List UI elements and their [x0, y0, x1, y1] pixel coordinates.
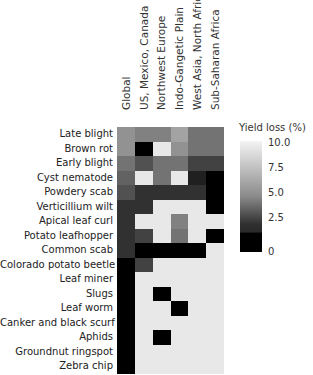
row-labels: Late blightBrown rotEarly blightCyst nem… [0, 127, 113, 374]
row-label: Canker and black scurf [0, 316, 113, 331]
heatmap-cell [206, 316, 224, 331]
row-label: Zebra chip [0, 359, 113, 374]
heatmap-cell [188, 316, 206, 331]
column-label: West Asia, North Africa [188, 0, 206, 122]
heatmap-cell [171, 330, 189, 345]
heatmap-cell [188, 301, 206, 316]
heatmap-cell [117, 359, 135, 374]
heatmap-cell [135, 127, 153, 142]
heatmap-cell [171, 127, 189, 142]
heatmap-cell [171, 142, 189, 157]
row-label: Common scab [0, 243, 113, 258]
colorbar-tick-label: 5.0 [268, 187, 284, 199]
heatmap-cell [117, 330, 135, 345]
heatmap-cell [171, 185, 189, 200]
column-label: US, Mexico, Canada [135, 0, 153, 122]
heatmap-cell [135, 185, 153, 200]
row-label: Slugs [0, 287, 113, 302]
row-label: Potato leafhopper [0, 229, 113, 244]
heatmap-cell [153, 316, 171, 331]
heatmap-cell [206, 156, 224, 171]
heatmap-cell [188, 359, 206, 374]
heatmap-cell [188, 345, 206, 360]
heatmap-cell [153, 185, 171, 200]
heatmap-cell [117, 287, 135, 302]
heatmap-cell [135, 156, 153, 171]
heatmap-cell [153, 258, 171, 273]
heatmap-cell [135, 330, 153, 345]
heatmap-cell [135, 171, 153, 186]
heatmap-cell [117, 243, 135, 258]
heatmap-cell [206, 171, 224, 186]
heatmap-cell [117, 272, 135, 287]
heatmap-cell [188, 142, 206, 157]
heatmap-cell [153, 171, 171, 186]
row-label: Aphids [0, 330, 113, 345]
heatmap-cell [188, 200, 206, 215]
heatmap-cell [171, 156, 189, 171]
heatmap-cell [117, 200, 135, 215]
heatmap-cell [117, 185, 135, 200]
heatmap-cell [171, 301, 189, 316]
heatmap-cell [206, 127, 224, 142]
heatmap-cell [188, 127, 206, 142]
column-label-text: Northwest Europe [155, 16, 167, 110]
heatmap-cell [153, 156, 171, 171]
heatmap-cell [135, 316, 153, 331]
heatmap-cell [135, 200, 153, 215]
heatmap-cell [171, 287, 189, 302]
heatmap-cell [153, 142, 171, 157]
column-label: Sub-Saharan Africa [206, 0, 224, 122]
heatmap-cell [153, 200, 171, 215]
heatmap-cell [188, 156, 206, 171]
heatmap-cell [188, 272, 206, 287]
heatmap-cell [135, 345, 153, 360]
heatmap-cell [153, 272, 171, 287]
row-label: Apical leaf curl [0, 214, 113, 229]
heatmap-cell [206, 243, 224, 258]
heatmap-cell [188, 229, 206, 244]
heatmap-cell [117, 214, 135, 229]
row-label: Leaf worm [0, 301, 113, 316]
heatmap-cell [171, 345, 189, 360]
heatmap-cell [153, 127, 171, 142]
heatmap-cell [206, 258, 224, 273]
heatmap-cell [171, 258, 189, 273]
heatmap-cell [135, 142, 153, 157]
colorbar-tick-label: 7.5 [268, 162, 284, 174]
colorbar-tick-label: 2.5 [268, 212, 284, 224]
row-label: Powdery scab [0, 185, 113, 200]
heatmap-cell [117, 171, 135, 186]
heatmap-cell [171, 316, 189, 331]
heatmap-cell [171, 243, 189, 258]
heatmap-cell [117, 229, 135, 244]
colorbar-tick-label: 0 [268, 246, 274, 258]
heatmap-cell [206, 272, 224, 287]
heatmap-cell [206, 301, 224, 316]
heatmap-cell [188, 243, 206, 258]
row-label: Leaf miner [0, 272, 113, 287]
heatmap-cell [135, 243, 153, 258]
heatmap-cell [117, 258, 135, 273]
column-label: Global [117, 0, 135, 122]
heatmap-cell [171, 272, 189, 287]
row-label: Late blight [0, 127, 113, 142]
heatmap-cell [153, 214, 171, 229]
column-label: Indo-Gangetic Plain [170, 0, 188, 122]
column-label-text: Indo-Gangetic Plain [173, 7, 185, 110]
heatmap-cell [135, 258, 153, 273]
heatmap-cell [188, 214, 206, 229]
row-label: Colorado potato beetle [0, 258, 113, 273]
column-label-text: Sub-Saharan Africa [209, 9, 221, 110]
row-label: Verticillium wilt [0, 200, 113, 215]
heatmap-cell [171, 200, 189, 215]
heatmap-cell [206, 359, 224, 374]
heatmap-cell [206, 229, 224, 244]
heatmap-cell [188, 330, 206, 345]
heatmap-cell [171, 214, 189, 229]
row-label: Brown rot [0, 142, 113, 157]
heatmap-cell [206, 185, 224, 200]
heatmap-cell [188, 171, 206, 186]
row-label: Groundnut ringspot [0, 345, 113, 360]
heatmap-cell [153, 243, 171, 258]
